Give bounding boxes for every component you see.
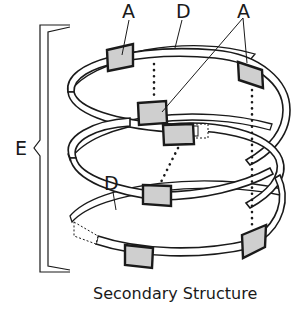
caption: Secondary Structure — [93, 284, 257, 303]
label-d-top: D — [176, 0, 191, 22]
label-a-left: A — [122, 0, 135, 22]
residue-box — [138, 101, 167, 125]
residue-box — [125, 245, 153, 268]
e-bracket — [34, 25, 70, 272]
label-d-middle: D — [104, 172, 119, 194]
dashed-end-left — [74, 222, 98, 244]
residue-box — [163, 124, 194, 145]
label-e: E — [15, 137, 27, 159]
residue-box — [107, 44, 133, 71]
residue-box — [242, 225, 266, 258]
label-a-right: A — [237, 0, 250, 22]
residue-box — [143, 185, 171, 206]
helix-diagram: A D A D E Secondary Structure — [0, 0, 308, 313]
residue-boxes — [107, 44, 266, 268]
